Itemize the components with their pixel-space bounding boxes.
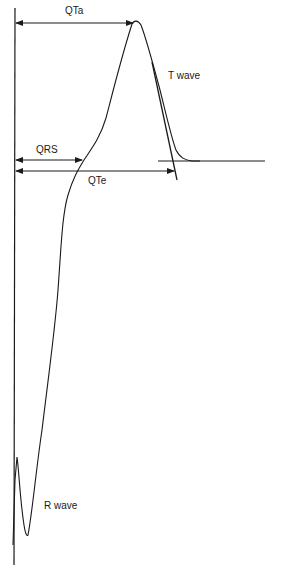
r-wave-label: R wave [44, 500, 77, 511]
qrs-label: QRS [36, 144, 58, 155]
qta-label: QTa [65, 5, 83, 16]
ecg-waveform [13, 21, 200, 545]
ecg-diagram-svg [0, 0, 284, 569]
qte-label: QTe [88, 175, 106, 186]
t-wave-label: T wave [168, 70, 200, 81]
